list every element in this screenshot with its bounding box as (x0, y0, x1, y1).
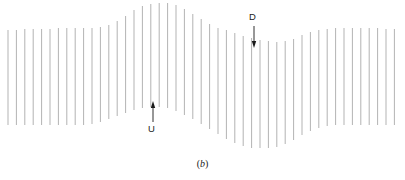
down-arrow-icon (252, 26, 256, 48)
up-arrow-icon (151, 101, 155, 122)
down-marker-label: D (249, 12, 256, 22)
up-marker-label: U (148, 124, 155, 134)
fringe-line-group (8, 3, 394, 148)
marker-arrow-group (151, 26, 256, 122)
caption-close-paren: ) (205, 158, 208, 169)
fringe-figure: U D (b) (0, 0, 405, 180)
fringe-pattern-svg (0, 0, 405, 180)
figure-caption: (b) (0, 158, 405, 169)
